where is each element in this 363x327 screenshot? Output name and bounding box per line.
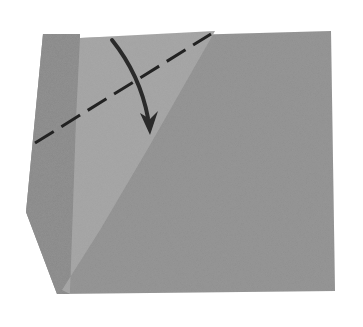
diagram-canvas <box>0 0 363 327</box>
origami-diagram: origami-fold-step valley-fold <box>0 0 363 327</box>
